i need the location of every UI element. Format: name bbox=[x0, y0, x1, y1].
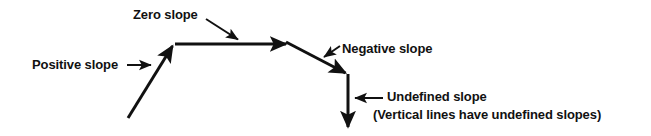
negative-slope-segment bbox=[286, 42, 346, 73]
zero-slope-pointer-arrow bbox=[206, 19, 238, 40]
undefined-slope-note-label: (Vertical lines have undefined slopes) bbox=[373, 107, 601, 122]
negative-slope-pointer-arrow bbox=[324, 46, 340, 57]
undefined-slope-label: Undefined slope bbox=[387, 89, 487, 104]
zero-slope-label: Zero slope bbox=[133, 7, 198, 22]
negative-slope-label: Negative slope bbox=[342, 41, 432, 56]
positive-slope-label: Positive slope bbox=[32, 57, 118, 72]
slope-diagram-figure: Positive slope Zero slope Negative slope… bbox=[0, 0, 651, 136]
positive-slope-segment bbox=[128, 46, 173, 118]
